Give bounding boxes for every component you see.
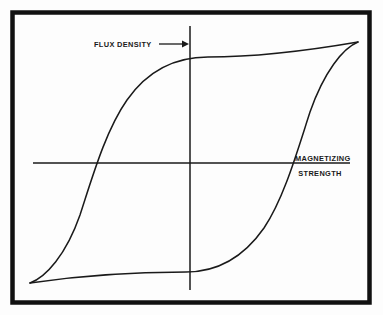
flux-density-label: FLUX DENSITY: [94, 40, 152, 49]
hysteresis-loop-figure: FLUX DENSITY MAGNETIZING STRENGTH: [0, 0, 383, 315]
magnetizing-strength-label-line1: MAGNETIZING: [295, 154, 351, 163]
flux-density-arrow-icon: [182, 41, 189, 48]
hysteresis-loop-svg: FLUX DENSITY MAGNETIZING STRENGTH: [0, 0, 383, 315]
magnetizing-strength-label-line2: STRENGTH: [298, 169, 341, 178]
